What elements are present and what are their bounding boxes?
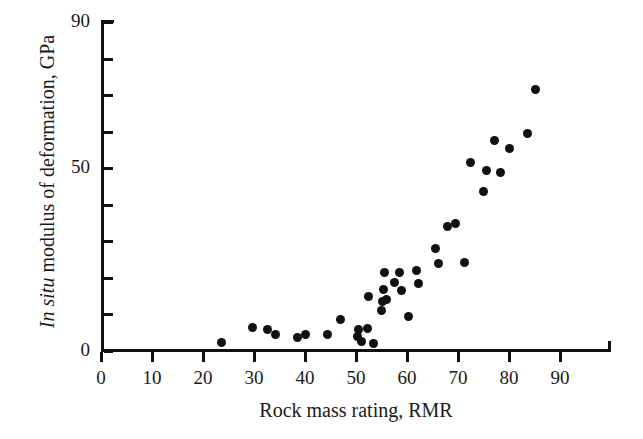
data-point [380,268,389,277]
data-point [354,325,363,334]
data-point [357,337,366,346]
x-tick-0 [100,352,103,362]
data-point [397,286,406,295]
data-point [336,315,345,324]
data-point [248,323,257,332]
y-tick-90 [104,21,113,24]
data-point [505,144,514,153]
y-tick-10 [104,313,113,316]
data-point [482,166,491,175]
y-axis-title-italic-part: In situ [36,278,58,329]
y-tick-0 [104,350,113,353]
x-tick-70 [457,352,460,362]
data-point [323,330,332,339]
data-point [217,338,226,347]
y-axis-title-rest: modulus of deformation, GPa [36,35,58,278]
x-tick-60 [406,352,409,362]
data-point [395,268,404,277]
data-point [363,324,372,333]
x-tick-30 [253,352,256,362]
y-tick-60 [104,131,113,134]
y-tick-label-0: 0 [56,340,90,359]
x-tick-label-40: 40 [285,368,325,387]
data-point [412,266,421,275]
data-point [404,312,413,321]
y-tick-70 [104,94,113,97]
x-axis-right-cap [608,341,611,352]
data-point [382,295,391,304]
x-axis-title: Rock mass rating, RMR [101,399,611,422]
plot-area: 05090 0102030405060708090 In situ modulu… [0,0,643,439]
data-point [364,292,373,301]
x-tick-label-0: 0 [81,368,121,387]
x-tick-label-20: 20 [183,368,223,387]
y-tick-label-90: 90 [56,11,90,30]
x-tick-label-50: 50 [336,368,376,387]
data-point [379,285,388,294]
data-point [523,129,532,138]
x-tick-label-80: 80 [489,368,529,387]
x-tick-label-30: 30 [234,368,274,387]
data-point [490,136,499,145]
data-point [301,330,310,339]
data-point [414,279,423,288]
x-tick-label-90: 90 [540,368,580,387]
y-tick-30 [104,240,113,243]
data-point [390,278,399,287]
x-tick-50 [355,352,358,362]
y-tick-20 [104,277,113,280]
data-point [431,244,440,253]
data-point [369,339,378,348]
x-tick-80 [508,352,511,362]
x-tick-label-10: 10 [132,368,172,387]
y-tick-50 [104,167,113,170]
x-tick-10 [151,352,154,362]
x-tick-90 [559,352,562,362]
data-point [531,85,540,94]
y-tick-label-50: 50 [56,157,90,176]
x-tick-20 [202,352,205,362]
y-tick-40 [104,204,113,207]
x-tick-label-60: 60 [387,368,427,387]
data-point [496,168,505,177]
data-point [466,158,475,167]
x-tick-40 [304,352,307,362]
x-tick-label-70: 70 [438,368,478,387]
data-point [377,306,386,315]
y-axis-line [101,20,104,352]
data-point [460,258,469,267]
data-point [479,187,488,196]
data-point [434,259,443,268]
y-tick-80 [104,58,113,61]
y-axis-title: In situ modulus of deformation, GPa [36,17,59,347]
figure-scatter-plot: 05090 0102030405060708090 In situ modulu… [0,0,643,439]
data-point [271,330,280,339]
data-point [451,219,460,228]
